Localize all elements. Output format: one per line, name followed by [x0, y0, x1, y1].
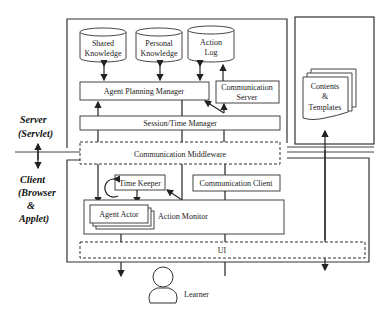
client-label: Client: [20, 174, 46, 185]
svg-text:Contents: Contents: [311, 82, 339, 91]
svg-text:Action Monitor: Action Monitor: [158, 212, 208, 221]
svg-text:UI: UI: [218, 246, 227, 255]
svg-text:Communication: Communication: [221, 83, 273, 92]
database-shared-knowledge: Shared Knowledge: [80, 28, 126, 62]
database-action-log: Action Log: [188, 26, 234, 62]
agent-actor: Agent Actor: [90, 205, 154, 229]
architecture-diagram: Server (Servlet) Client (Browser & Apple…: [0, 0, 387, 316]
svg-text:Server: Server: [237, 93, 258, 102]
svg-text:Shared: Shared: [92, 39, 114, 48]
svg-text:Communication Client: Communication Client: [199, 179, 273, 188]
svg-text:Agent Actor: Agent Actor: [99, 210, 139, 219]
ui-layer: UI: [80, 242, 365, 258]
database-personal-knowledge: Personal Knowledge: [136, 28, 182, 62]
client-sublabel-3: Applet): [18, 213, 49, 225]
svg-text:Log: Log: [205, 48, 218, 57]
server-label: Server: [20, 114, 47, 125]
svg-text:Templates: Templates: [309, 103, 342, 112]
svg-text:&: &: [322, 92, 329, 101]
svg-text:Knowledge: Knowledge: [141, 49, 178, 58]
svg-text:Session/Time Manager: Session/Time Manager: [143, 119, 217, 128]
svg-text:Personal: Personal: [145, 39, 173, 48]
server-sublabel: (Servlet): [18, 128, 53, 140]
learner-user-icon: [149, 267, 177, 303]
communication-client: Communication Client: [193, 175, 280, 191]
contents-templates: Contents & Templates: [303, 69, 356, 120]
arrow-mw-timekeeper: [167, 190, 182, 200]
communication-middleware: Communication Middleware: [80, 142, 280, 164]
svg-text:Agent Planning Manager: Agent Planning Manager: [104, 87, 185, 96]
session-time-manager: Session/Time Manager: [80, 116, 280, 130]
svg-text:Time Keeper: Time Keeper: [119, 179, 161, 188]
learner-label: Learner: [184, 290, 209, 299]
client-sublabel-2: &: [27, 200, 35, 211]
client-sublabel-1: (Browser: [18, 187, 56, 199]
agent-planning-manager: Agent Planning Manager: [80, 82, 209, 100]
communication-server: Communication Server: [216, 81, 279, 103]
time-keeper: Time Keeper: [115, 175, 165, 190]
svg-text:Action: Action: [200, 38, 222, 47]
svg-text:Communication Middleware: Communication Middleware: [134, 150, 227, 159]
svg-text:Knowledge: Knowledge: [85, 49, 122, 58]
